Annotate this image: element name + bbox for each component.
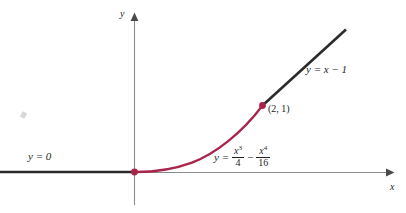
curve-equation-term-1: x3 4 (232, 146, 244, 168)
term-2-denominator: 16 (256, 158, 270, 169)
origin-point-marker (131, 169, 138, 176)
curve-equation-minus: − (247, 152, 253, 163)
term-1-denominator: 4 (234, 158, 243, 169)
x-axis-arrowhead (386, 169, 395, 177)
term-1-exponent: 3 (239, 144, 243, 152)
zero-branch-label: y = 0 (28, 151, 51, 162)
plot-canvas (0, 0, 406, 213)
curve-equation-term-2: x4 16 (256, 146, 270, 168)
y-axis-arrowhead (131, 13, 139, 22)
y-axis-label: y (120, 9, 124, 19)
function-graph-figure: y x y = 0 y = x − 1 (2, 1) y = x3 4 − x4… (0, 0, 406, 213)
x-axis-label: x (390, 182, 394, 192)
point-coordinate-label: (2, 1) (268, 104, 290, 114)
tangency-point-marker (259, 102, 266, 109)
line-branch-label: y = x − 1 (306, 64, 347, 75)
term-2-numerator: x4 (257, 146, 269, 157)
curve-equation-lhs: y = (214, 152, 229, 163)
term-1-numerator: x3 (232, 146, 244, 157)
curve-equation-label: y = x3 4 − x4 16 (214, 146, 270, 168)
term-2-exponent: 4 (264, 144, 268, 152)
